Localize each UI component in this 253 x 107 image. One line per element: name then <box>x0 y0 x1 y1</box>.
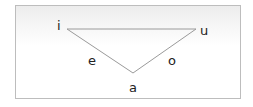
edge-i-a <box>67 29 133 73</box>
vertex-label-u: u <box>200 24 208 37</box>
edge-label-o: o <box>168 54 176 67</box>
vowel-triangle <box>0 0 253 107</box>
vertex-label-a: a <box>129 81 137 94</box>
vertex-label-i: i <box>57 19 61 32</box>
edge-label-e: e <box>88 54 96 67</box>
edge-u-a <box>133 29 196 73</box>
